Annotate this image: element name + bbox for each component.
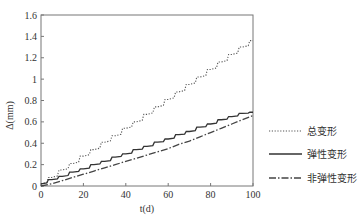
y-tick-label: 0.6: [25, 116, 38, 127]
y-tick-label: 1: [32, 74, 37, 85]
x-tick-label: 20: [78, 189, 88, 200]
y-tick-label: 1.4: [25, 31, 38, 42]
x-tick-label: 40: [121, 189, 131, 200]
line-chart: 00.20.40.60.811.21.41.6020406080100t(d)Δ…: [0, 0, 362, 220]
plot-frame: [41, 15, 253, 186]
series-line-0: [41, 41, 253, 184]
x-tick-label: 100: [246, 189, 261, 200]
y-tick-label: 1.2: [25, 52, 38, 63]
y-axis-label: Δ(mm): [4, 101, 16, 130]
x-axis-label: t(d): [140, 203, 154, 215]
x-tick-label: 0: [39, 189, 44, 200]
legend: 总变形弹性变形非弹性变形: [269, 125, 357, 184]
y-tick-label: 0.2: [25, 159, 38, 170]
y-tick-label: 0: [32, 181, 37, 192]
y-tick-label: 1.6: [25, 10, 38, 21]
series-line-1: [41, 112, 253, 184]
y-tick-label: 0.4: [25, 138, 38, 149]
legend-label: 非弹性变形: [307, 172, 357, 184]
plot-area: 00.20.40.60.811.21.41.6020406080100t(d)Δ…: [4, 10, 261, 216]
legend-label: 总变形: [307, 125, 337, 137]
y-tick-label: 0.8: [25, 95, 38, 106]
series-line-2: [41, 115, 253, 186]
x-tick-label: 60: [163, 189, 173, 200]
legend-label: 弹性变形: [307, 148, 347, 160]
x-tick-label: 80: [206, 189, 216, 200]
